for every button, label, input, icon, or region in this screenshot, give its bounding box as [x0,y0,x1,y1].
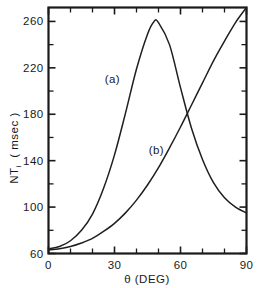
x-tick-label: 30 [108,259,122,271]
y-tick-label: 100 [23,201,43,213]
y-tick-label: 60 [30,248,44,260]
x-tick-label: 90 [240,259,254,271]
y-tick-label: 140 [23,155,43,167]
y-axis-title-main: NT [8,167,20,183]
y-axis-title-units: ( msec ) [8,112,20,158]
figure-container: 60100140180220260 0306090 (a) (b) NTi ( … [0,0,257,288]
y-tick-label: 260 [23,15,43,27]
y-tick-label: 180 [23,108,43,120]
curve-label-b: (b) [149,144,164,156]
curve-label-a: (a) [105,73,120,85]
x-tick-label: 60 [174,259,188,271]
chart-background [0,0,257,288]
y-tick-label: 220 [23,62,43,74]
x-axis-title: θ (DEG) [124,273,170,285]
x-tick-label: 0 [45,259,52,271]
line-chart: 60100140180220260 0306090 (a) (b) NTi ( … [0,0,257,288]
